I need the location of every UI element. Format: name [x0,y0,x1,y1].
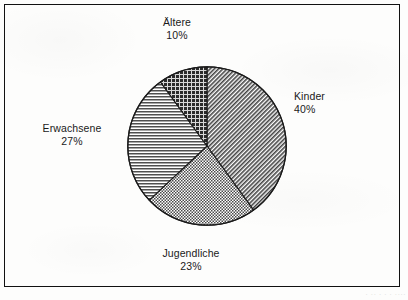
slice-label-jugendliche-name: Jugendliche [162,247,219,259]
slice-label-kinder-name: Kinder [294,90,325,102]
chart-page: Ältere 10% Kinder 40% Erwachsene 27% Jug… [0,0,408,300]
slice-label-erwachsene-pct: 27% [26,135,118,148]
slice-label-kinder-pct: 40% [294,103,364,116]
slice-label-kinder: Kinder 40% [294,90,364,116]
pie-slice-group [128,67,286,225]
slice-label-aeltere-name: Ältere [163,16,191,28]
bottom-caption: · ·· · · · ···· [238,290,406,299]
slice-label-jugendliche: Jugendliche 23% [143,247,239,273]
slice-label-aeltere: Ältere 10% [138,16,216,42]
slice-label-aeltere-pct: 10% [138,29,216,42]
slice-label-erwachsene-name: Erwachsene [43,122,102,134]
pie-chart-svg [127,66,287,226]
pie-chart [127,66,287,226]
slice-label-erwachsene: Erwachsene 27% [26,122,118,148]
slice-label-jugendliche-pct: 23% [143,260,239,273]
